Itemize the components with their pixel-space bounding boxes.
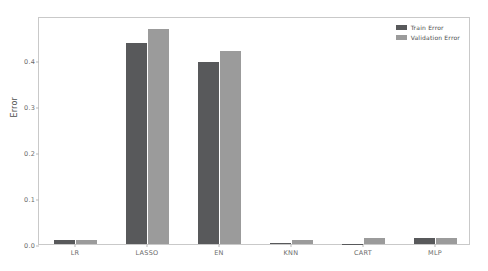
x-tick-label-cart: CART [354, 249, 372, 257]
x-tick-mark [75, 244, 76, 247]
legend-swatch-icon [396, 35, 407, 40]
legend-entry-1: Validation Error [396, 34, 460, 41]
bar-lasso-train-error [126, 43, 147, 244]
bar-chart-figure: Error 0.00.10.20.30.4 LRLASSOENKNNCARTML… [0, 0, 488, 271]
legend-swatch-icon [396, 25, 407, 30]
x-tick-mark [291, 244, 292, 247]
y-tick-mark [36, 246, 39, 247]
x-tick-mark [219, 244, 220, 247]
bar-lr-train-error [54, 240, 75, 244]
y-tick-mark [36, 153, 39, 154]
bar-lr-validation-error [76, 240, 97, 244]
y-tick-mark [36, 107, 39, 108]
legend-label: Validation Error [411, 34, 460, 41]
plot-area: 0.00.10.20.30.4 LRLASSOENKNNCARTMLP Trai… [38, 17, 470, 245]
bar-en-validation-error [220, 51, 241, 244]
bar-mlp-validation-error [436, 238, 457, 244]
x-tick-mark [147, 244, 148, 247]
x-tick-label-knn: KNN [284, 249, 299, 257]
bar-en-train-error [198, 62, 219, 244]
legend-entry-0: Train Error [396, 24, 460, 31]
y-tick-mark [36, 61, 39, 62]
y-axis-label: Error [10, 104, 19, 118]
y-tick-mark [36, 199, 39, 200]
legend-label: Train Error [411, 24, 444, 31]
x-tick-mark [363, 244, 364, 247]
chart-legend: Train ErrorValidation Error [393, 22, 463, 43]
x-tick-label-en: EN [214, 249, 224, 257]
x-tick-label-lasso: LASSO [135, 249, 158, 257]
x-tick-label-lr: LR [71, 249, 80, 257]
x-tick-mark [435, 244, 436, 247]
bar-cart-validation-error [364, 238, 385, 244]
x-tick-label-mlp: MLP [428, 249, 442, 257]
bar-mlp-train-error [414, 238, 435, 244]
bar-knn-validation-error [292, 240, 313, 244]
bar-lasso-validation-error [148, 29, 169, 244]
bar-knn-train-error [270, 243, 291, 244]
